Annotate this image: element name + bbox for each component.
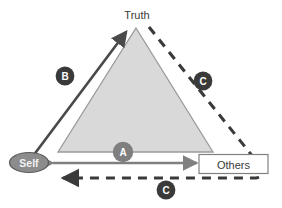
diagram-canvas: Truth Others Self A B C C xyxy=(0,0,282,208)
badge-c-right-label: C xyxy=(199,76,206,87)
node-label-self: Self xyxy=(19,157,39,169)
node-label-truth: Truth xyxy=(124,9,149,21)
badge-b-label: B xyxy=(61,71,68,82)
badge-c-bottom-label: C xyxy=(162,185,169,196)
node-label-others: Others xyxy=(217,159,251,171)
relational-triangle-diagram: Truth Others Self A B C C xyxy=(0,0,282,208)
badge-a-label: A xyxy=(119,147,126,158)
